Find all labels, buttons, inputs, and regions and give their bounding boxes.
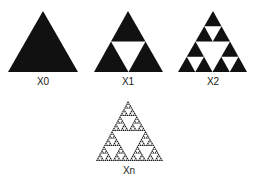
label-x0: X0 <box>23 76 63 88</box>
triangle-x0 <box>8 11 78 72</box>
triangle-xn <box>96 101 163 161</box>
label-x2: X2 <box>193 76 233 88</box>
label-x1: X1 <box>108 76 148 88</box>
triangle-x1 <box>94 11 163 72</box>
triangle-x2 <box>178 11 247 72</box>
label-xn: Xn <box>109 165 149 177</box>
sierpinski-figure <box>0 0 255 183</box>
